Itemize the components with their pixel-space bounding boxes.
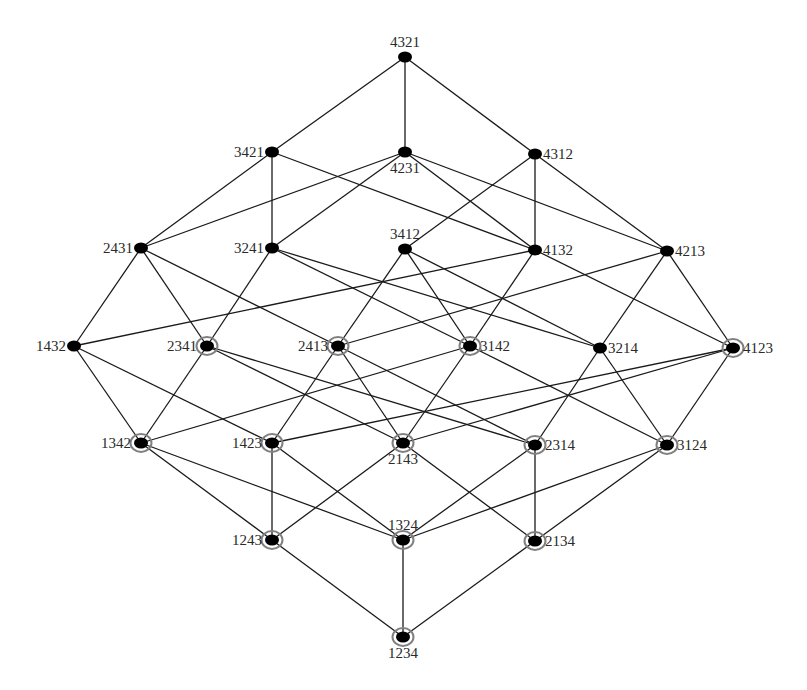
edge-4321-4312 (405, 57, 535, 154)
edge-2413-2143 (338, 346, 403, 443)
node-4231: 4231 (390, 147, 420, 177)
edge-3214-3124 (600, 348, 667, 445)
node-4123: 4123 (723, 339, 774, 357)
node-3412: 3412 (390, 226, 420, 255)
node-dot-icon (398, 244, 412, 255)
node-2341: 2341 (167, 337, 218, 355)
node-dot-icon (528, 440, 542, 451)
node-dot-icon (593, 343, 607, 354)
node-1342: 1342 (101, 434, 152, 452)
node-3214: 3214 (593, 340, 639, 356)
edge-4321-3421 (272, 57, 405, 152)
node-2143: 2143 (388, 434, 418, 467)
edge-3241-3142 (272, 248, 470, 346)
node-label: 2134 (545, 533, 576, 549)
node-dot-icon (134, 438, 148, 449)
node-1432: 1432 (36, 338, 81, 354)
edge-3142-2143 (403, 346, 470, 443)
node-dot-icon (528, 536, 542, 547)
node-dot-icon (67, 341, 81, 352)
node-label: 4312 (543, 146, 573, 162)
node-dot-icon (134, 243, 148, 254)
node-dot-icon (528, 149, 542, 160)
edge-2431-2341 (141, 248, 207, 346)
node-1234: 1234 (388, 628, 419, 661)
node-label: 4231 (390, 160, 420, 176)
edge-4231-2431 (141, 152, 405, 248)
node-label: 4213 (675, 243, 705, 259)
node-dot-icon (528, 245, 542, 256)
edge-4123-3124 (667, 348, 733, 445)
edge-3142-1342 (141, 346, 470, 443)
node-dot-icon (396, 438, 410, 449)
edge-3412-3142 (405, 249, 470, 346)
node-label: 1243 (232, 532, 262, 548)
node-label: 3412 (390, 226, 420, 242)
node-3142: 3142 (460, 337, 511, 355)
node-dot-icon (265, 438, 279, 449)
edge-1432-1423 (74, 346, 272, 443)
node-label: 4321 (390, 34, 420, 50)
node-dot-icon (463, 341, 477, 352)
node-label: 3124 (677, 437, 708, 453)
node-4213: 4213 (660, 243, 705, 259)
node-dot-icon (660, 246, 674, 257)
node-label: 2413 (298, 338, 328, 354)
node-4321: 4321 (390, 34, 420, 63)
edge-2431-1432 (74, 248, 141, 346)
node-label: 4123 (743, 340, 773, 356)
node-dot-icon (265, 147, 279, 158)
node-label: 1324 (388, 517, 419, 533)
edge-2341-1342 (141, 346, 207, 443)
edge-3412-2413 (338, 249, 405, 346)
edge-4231-4213 (405, 152, 667, 251)
edge-4213-2413 (338, 251, 667, 346)
node-label: 3241 (234, 240, 264, 256)
node-label: 4132 (543, 242, 573, 258)
node-label: 3142 (480, 338, 510, 354)
edge-3214-2314 (535, 348, 600, 445)
edge-4213-3214 (600, 251, 667, 348)
node-2314: 2314 (525, 436, 576, 454)
edge-3241-3214 (272, 248, 600, 348)
node-dot-icon (398, 147, 412, 158)
edge-2134-1234 (403, 541, 535, 637)
node-label: 1423 (232, 435, 262, 451)
edge-4312-4213 (535, 154, 667, 251)
node-2431: 2431 (103, 240, 148, 256)
node-dot-icon (660, 440, 674, 451)
node-label: 1342 (101, 435, 131, 451)
node-label: 3421 (234, 144, 264, 160)
node-dot-icon (726, 343, 740, 354)
edge-1342-1243 (141, 443, 272, 540)
node-label: 2431 (103, 240, 133, 256)
node-dot-icon (265, 535, 279, 546)
node-3124: 3124 (657, 436, 708, 454)
node-label: 2143 (388, 451, 418, 467)
edge-4213-4123 (667, 251, 733, 348)
node-1243: 1243 (232, 531, 283, 549)
edge-4231-3241 (272, 152, 405, 248)
node-dot-icon (200, 341, 214, 352)
edge-3241-2341 (207, 248, 272, 346)
node-label: 1234 (388, 645, 419, 661)
node-2134: 2134 (525, 532, 576, 550)
edge-4123-2143 (403, 348, 733, 443)
edge-1243-1234 (272, 540, 403, 637)
lattice-diagram: 4321342142314312243132413412413242131432… (0, 0, 807, 690)
node-label: 2314 (545, 437, 576, 453)
node-label: 3214 (608, 340, 639, 356)
node-dot-icon (265, 243, 279, 254)
node-label: 1432 (36, 338, 66, 354)
edge-3421-2431 (141, 152, 272, 248)
node-2413: 2413 (298, 337, 349, 355)
edge-3124-2134 (535, 445, 667, 541)
node-dot-icon (396, 535, 410, 546)
edge-1432-1342 (74, 346, 141, 443)
node-label: 2341 (167, 338, 197, 354)
node-1423: 1423 (232, 434, 283, 452)
node-dot-icon (398, 52, 412, 63)
node-dot-icon (331, 341, 345, 352)
node-dot-icon (396, 632, 410, 643)
